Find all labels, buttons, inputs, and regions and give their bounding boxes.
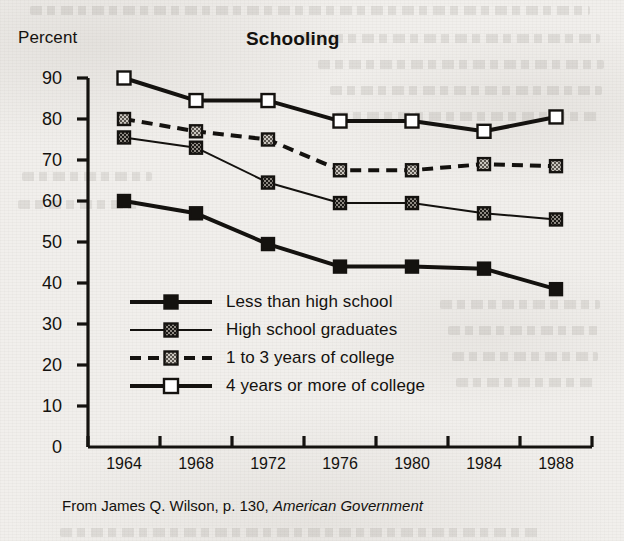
legend-item: 1 to 3 years of college bbox=[128, 344, 425, 372]
legend-label: 4 years or more of college bbox=[226, 376, 425, 396]
x-tick-label: 1984 bbox=[466, 455, 502, 473]
legend-label: Less than high school bbox=[226, 292, 393, 312]
legend-label: 1 to 3 years of college bbox=[226, 348, 395, 368]
legend-marker-sample bbox=[128, 320, 214, 340]
x-tick-label: 1976 bbox=[322, 455, 358, 473]
source-note-prefix: From James Q. Wilson, p. 130, bbox=[62, 497, 273, 514]
chart-legend: Less than high school High school gradua… bbox=[128, 288, 425, 400]
legend-label: High school graduates bbox=[226, 320, 397, 340]
legend-item: Less than high school bbox=[128, 288, 425, 316]
x-tick-label: 1980 bbox=[394, 455, 430, 473]
x-tick-label: 1964 bbox=[106, 455, 142, 473]
chart-figure: Percent Schooling 0102030405060708090 19… bbox=[0, 0, 624, 541]
legend-marker-sample bbox=[128, 376, 214, 396]
legend-item: High school graduates bbox=[128, 316, 425, 344]
x-tick-label: 1988 bbox=[538, 455, 574, 473]
legend-marker-sample bbox=[128, 292, 214, 312]
source-note-book-title: American Government bbox=[273, 497, 423, 514]
x-tick-label: 1972 bbox=[250, 455, 286, 473]
x-tick-label: 1968 bbox=[178, 455, 214, 473]
legend-item: 4 years or more of college bbox=[128, 372, 425, 400]
plot-area bbox=[0, 0, 624, 541]
legend-marker-sample bbox=[128, 348, 214, 368]
source-note: From James Q. Wilson, p. 130, American G… bbox=[62, 497, 423, 514]
